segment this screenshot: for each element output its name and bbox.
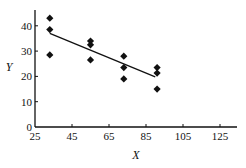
x-tick-label: 65 bbox=[104, 130, 116, 142]
diamond-marker bbox=[154, 70, 161, 77]
x-tick-label: 125 bbox=[212, 130, 229, 142]
diamond-marker bbox=[87, 56, 94, 63]
data-points bbox=[46, 15, 161, 93]
diamond-marker bbox=[154, 85, 161, 92]
y-tick-label: 30 bbox=[21, 45, 33, 57]
diamond-marker bbox=[46, 15, 53, 22]
y-tick-label: 20 bbox=[21, 70, 33, 82]
diamond-marker bbox=[87, 41, 94, 48]
x-tick-label: 45 bbox=[67, 130, 79, 142]
y-axis-title: Y bbox=[6, 60, 14, 74]
diamond-marker bbox=[46, 51, 53, 58]
y-tick-label: 10 bbox=[21, 96, 33, 108]
y-tick-label: 40 bbox=[21, 20, 33, 32]
x-tick-label: 85 bbox=[141, 130, 153, 142]
x-axis-title: X bbox=[131, 148, 140, 162]
fit-line bbox=[50, 33, 155, 77]
x-tick-label: 105 bbox=[175, 130, 192, 142]
regression-line bbox=[50, 33, 155, 77]
diamond-marker bbox=[120, 53, 127, 60]
y-tick-label: 0 bbox=[27, 121, 33, 133]
diamond-marker bbox=[46, 26, 53, 33]
diamond-marker bbox=[120, 75, 127, 82]
scatter-chart: 25456585105125010203040 X Y bbox=[0, 0, 246, 168]
